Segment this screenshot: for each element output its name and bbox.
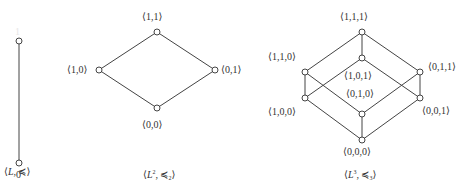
edge-111-110 xyxy=(305,32,362,72)
caption-close: ⟩ xyxy=(372,169,376,180)
edge-11-10 xyxy=(99,32,157,70)
label-node-100: ⟨1,0,0⟩ xyxy=(268,107,296,117)
square-diagram xyxy=(96,29,218,111)
node-01 xyxy=(212,67,218,73)
label-node-1: 1 xyxy=(15,27,20,37)
label-node-011: ⟨0,1,1⟩ xyxy=(428,62,456,72)
node-111 xyxy=(359,29,365,35)
label-node-10: ⟨1,0⟩ xyxy=(67,65,87,75)
caption-square: ⟨L2, ≼2⟩ xyxy=(143,166,175,184)
caption-close: ⟩ xyxy=(171,169,175,180)
hasse-diagrams xyxy=(0,0,466,189)
label-node-001: ⟨0,0,1⟩ xyxy=(422,106,450,116)
edge-001-000 xyxy=(362,98,420,140)
node-011 xyxy=(417,69,423,75)
edge-11-01 xyxy=(157,32,215,70)
node-010 xyxy=(359,111,365,117)
caption-chain: ⟨L, ≼⟩ xyxy=(4,166,30,178)
node-1 xyxy=(16,38,22,44)
caption-cube: ⟨L3, ≼3⟩ xyxy=(344,166,376,184)
caption-close: ⟩ xyxy=(26,166,30,177)
node-100 xyxy=(302,95,308,101)
label-node-11: ⟨1,1⟩ xyxy=(142,12,162,22)
node-11 xyxy=(154,29,160,35)
edge-100-000 xyxy=(305,98,362,140)
node-000 xyxy=(359,137,365,143)
label-node-000: ⟨0,0,0⟩ xyxy=(343,147,371,157)
label-node-110: ⟨1,1,0⟩ xyxy=(268,52,296,62)
node-10 xyxy=(96,67,102,73)
node-101 xyxy=(359,55,365,61)
label-node-010: ⟨0,1,0⟩ xyxy=(346,89,374,99)
label-node-111: ⟨1,1,1⟩ xyxy=(340,12,368,22)
node-00 xyxy=(154,105,160,111)
edge-111-011 xyxy=(362,32,420,72)
cube-diagram xyxy=(302,29,423,143)
label-node-01: ⟨0,1⟩ xyxy=(221,65,241,75)
node-001 xyxy=(417,95,423,101)
label-node-00: ⟨0,0⟩ xyxy=(142,120,162,130)
node-110 xyxy=(302,69,308,75)
chain-diagram xyxy=(16,38,22,166)
edge-10-00 xyxy=(99,70,157,108)
label-node-101: ⟨1,0,1⟩ xyxy=(344,71,372,81)
lattice-figure: 1 0 ⟨1,1⟩ ⟨1,0⟩ ⟨0,1⟩ ⟨0,0⟩ ⟨1,1,1⟩ ⟨1,0… xyxy=(0,0,466,189)
edge-01-00 xyxy=(157,70,215,108)
